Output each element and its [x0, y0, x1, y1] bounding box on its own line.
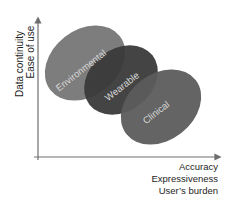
y-axis-label-group: Data continuity — [14, 31, 25, 97]
y-axis-label-data-continuity: Data continuity — [14, 31, 25, 97]
y-axis-label-ease-of-use: Ease of use — [25, 25, 36, 78]
x-axis-label-accuracy: Accuracy — [179, 161, 218, 172]
sensing-tradeoff-diagram: Data continuity Ease of use Environmenta… — [0, 0, 241, 205]
x-axis-label-expressiveness: Expressiveness — [151, 173, 218, 184]
x-axis-label-users-burden: User’s burden — [159, 185, 218, 196]
